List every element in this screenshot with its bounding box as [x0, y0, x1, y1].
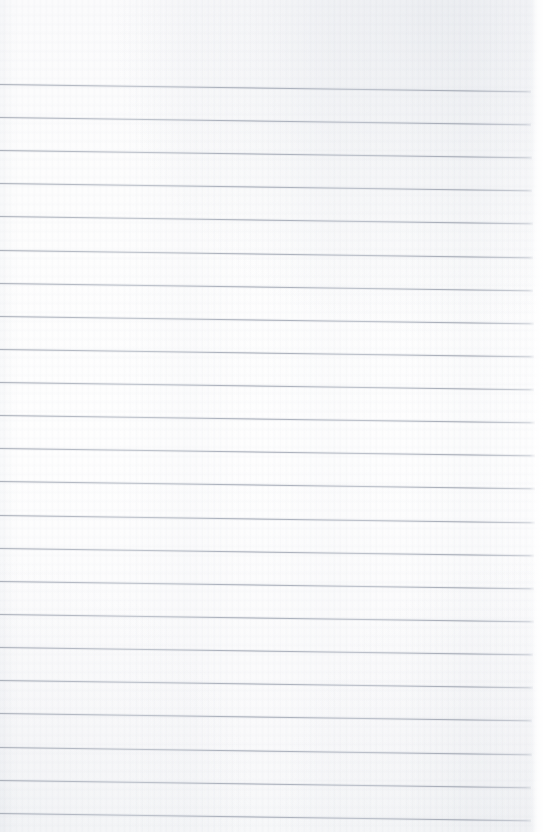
ruled-line	[0, 382, 534, 390]
ruled-line	[0, 581, 534, 589]
ruled-line	[0, 548, 534, 556]
scanned-page: Blank lined paper Scan of a blank sheet …	[0, 0, 543, 832]
ruled-line	[0, 448, 535, 456]
ruled-line	[0, 780, 531, 788]
ruled-line	[0, 117, 531, 125]
ruled-line	[0, 515, 535, 523]
ruled-line	[0, 349, 534, 357]
ruled-line	[0, 283, 533, 291]
ruled-line	[0, 84, 531, 92]
ruled-line	[0, 747, 532, 755]
ruled-line	[0, 216, 533, 224]
ruled-line	[0, 316, 534, 324]
ruled-lines-group	[0, 0, 543, 832]
ruled-line	[0, 647, 533, 655]
ruled-line	[0, 680, 533, 688]
ruled-line	[0, 481, 535, 489]
ruled-line	[0, 813, 531, 821]
ruled-line	[0, 614, 534, 622]
ruled-line	[0, 713, 532, 721]
ruled-line	[0, 250, 533, 258]
ruled-line	[0, 415, 535, 423]
ruled-line	[0, 183, 532, 191]
ruled-line	[0, 150, 532, 158]
